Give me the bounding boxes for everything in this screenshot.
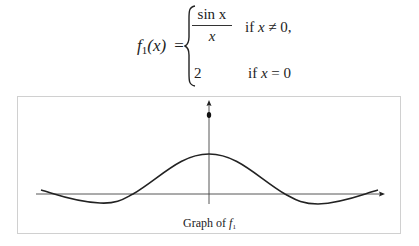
graph-caption: Graph of f1 <box>0 216 419 231</box>
sinc-curve <box>41 154 378 204</box>
point-f1-0 <box>207 112 211 118</box>
caption-subscript: 1 <box>232 223 236 231</box>
graph-plot <box>0 0 419 246</box>
caption-text: Graph of <box>183 216 229 230</box>
